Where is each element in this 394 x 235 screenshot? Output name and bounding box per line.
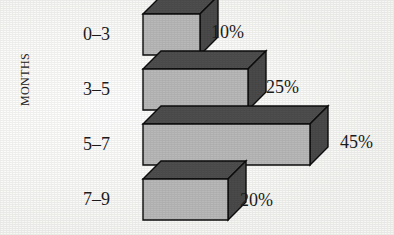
bar-top-face <box>143 106 328 124</box>
bar-front-face <box>143 179 228 220</box>
value-label-0-3: 10% <box>211 22 244 43</box>
value-label-3-5: 25% <box>266 77 299 98</box>
bar-chart-figure: MONTHS 0–3 3–5 5–7 7–9 <box>0 0 394 235</box>
value-label-7-9: 20% <box>240 190 273 211</box>
bar-top-face <box>143 51 266 69</box>
category-label-5-7: 5–7 <box>40 134 110 155</box>
value-label-5-7: 45% <box>340 132 373 153</box>
category-label-7-9: 7–9 <box>40 189 110 210</box>
bar-7-9 <box>137 159 257 229</box>
y-axis-title: MONTHS <box>4 0 44 197</box>
category-label-3-5: 3–5 <box>40 79 110 100</box>
category-label-0-3: 0–3 <box>40 24 110 45</box>
